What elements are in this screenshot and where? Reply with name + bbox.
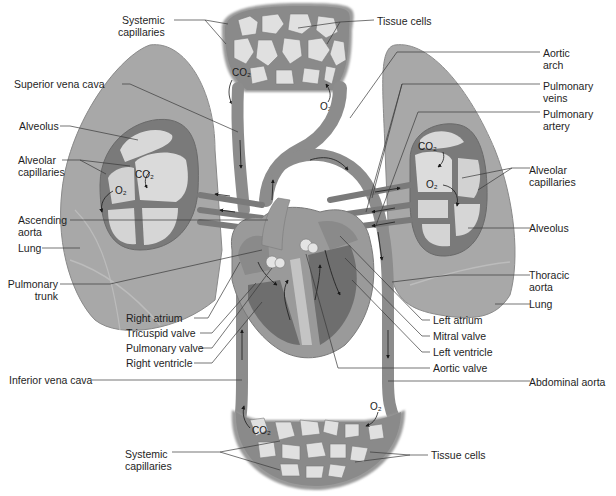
label-alveolar-capillaries-right: Alveolar capillaries [529, 164, 576, 188]
label-mitral-valve: Mitral valve [433, 330, 486, 342]
o2-label-left-lung: O₂ [115, 185, 127, 196]
label-pulmonary-valve: Pulmonary valve [126, 342, 204, 354]
co2-label-top: CO₂ [232, 67, 251, 78]
label-systemic-capillaries-bottom: Systemic capillaries [125, 448, 172, 472]
label-superior-vena-cava: Superior vena cava [14, 78, 104, 90]
label-pulmonary-veins: Pulmonary veins [543, 80, 593, 104]
o2-label-right-lung: O₂ [426, 179, 438, 190]
label-alveolus-left: Alveolus [19, 120, 59, 132]
co2-label-left-lung: CO₂ [135, 169, 154, 180]
label-alveolus-right: Alveolus [529, 222, 569, 234]
co2-label-bottom: CO₂ [252, 425, 271, 436]
label-tissue-cells-top: Tissue cells [377, 15, 431, 27]
label-tricuspid-valve: Tricuspid valve [126, 327, 196, 339]
co2-label-right-lung: CO₂ [418, 141, 437, 152]
label-abdominal-aorta: Abdominal aorta [529, 376, 605, 388]
label-tissue-cells-bottom: Tissue cells [431, 449, 485, 461]
label-ascending-aorta: Ascending aorta [18, 214, 67, 238]
label-lung-right: Lung [529, 298, 552, 310]
label-thoracic-aorta: Thoracic aorta [529, 269, 569, 293]
circulation-diagram: CO₂ O₂ CO₂ O₂ [0, 0, 616, 496]
label-pulmonary-trunk: Pulmonary trunk [6, 278, 58, 302]
heart [231, 198, 373, 358]
label-right-ventricle: Right ventricle [126, 357, 193, 369]
label-left-ventricle: Left ventricle [433, 346, 493, 358]
label-systemic-capillaries-top: Systemic capillaries [118, 14, 165, 38]
bottom-systemic-capillary-bed: CO₂ O₂ [232, 401, 405, 490]
label-lung-left: Lung [18, 242, 41, 254]
label-alveolar-capillaries-left: Alveolar capillaries [18, 154, 65, 178]
label-aortic-valve: Aortic valve [433, 362, 487, 374]
label-pulmonary-artery: Pulmonary artery [543, 108, 593, 132]
label-aortic-arch: Aortic arch [543, 47, 570, 71]
label-right-atrium: Right atrium [126, 312, 183, 324]
right-alveolar-cluster: CO₂ O₂ [410, 124, 487, 256]
label-left-atrium: Left atrium [433, 314, 483, 326]
right-lung: CO₂ O₂ [383, 45, 515, 318]
label-inferior-vena-cava: Inferior vena cava [9, 374, 92, 386]
o2-label-bottom: O₂ [370, 401, 382, 412]
